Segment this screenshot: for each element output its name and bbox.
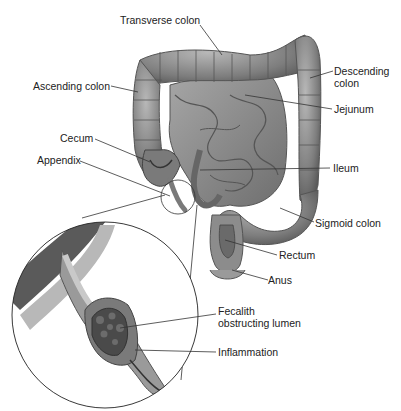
label-ileum: Ileum — [333, 162, 359, 174]
label-appendix: Appendix — [37, 154, 81, 166]
label-ascending-colon: Ascending colon — [33, 80, 110, 92]
small-intestine — [169, 75, 287, 206]
label-inflammation: Inflammation — [218, 346, 278, 358]
label-jejunum: Jejunum — [334, 103, 374, 115]
anus — [210, 270, 245, 279]
label-cecum: Cecum — [60, 132, 93, 144]
appendix-inset — [0, 215, 198, 408]
appendix — [170, 180, 185, 210]
label-descending-colon-line2: colon — [334, 77, 359, 89]
label-fecalith-line2: obstructing lumen — [218, 317, 301, 329]
intestine-illustration — [0, 0, 401, 411]
cecum — [142, 150, 180, 187]
label-fecalith-line1: Fecalith — [218, 305, 255, 317]
label-transverse-colon: Transverse colon — [120, 14, 200, 26]
label-anus: Anus — [268, 274, 292, 286]
descending-colon — [295, 36, 321, 202]
transverse-colon — [140, 35, 310, 85]
label-sigmoid-colon: Sigmoid colon — [315, 217, 381, 229]
label-descending-colon-line1: Descending — [334, 65, 389, 77]
label-rectum: Rectum — [279, 249, 315, 261]
